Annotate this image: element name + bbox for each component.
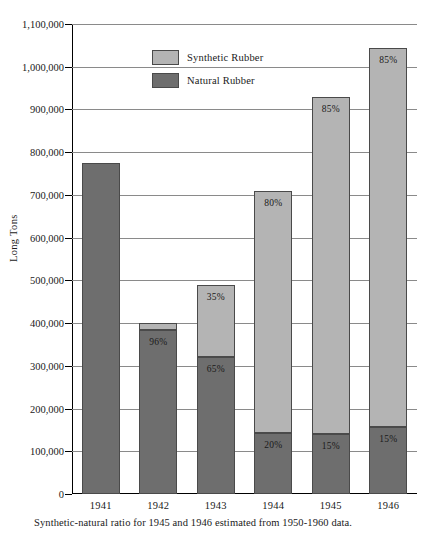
bar-label-natural: 15%: [369, 434, 407, 444]
y-tick-label: 1,100,000: [22, 19, 64, 30]
bar-label-synthetic: 85%: [312, 104, 350, 114]
legend-item-synthetic: Synthetic Rubber: [152, 47, 263, 67]
gridline: [72, 409, 417, 410]
bar-label-natural: 20%: [254, 440, 292, 450]
legend-swatch-natural-icon: [152, 73, 179, 88]
y-tick-label: 1,000,000: [22, 61, 64, 72]
bar-segment-synthetic: [254, 191, 292, 434]
y-tick-label: 400,000: [30, 318, 64, 329]
y-tick-dash: [65, 195, 72, 196]
y-tick-label: 100,000: [30, 446, 64, 457]
bar-segment-synthetic: [369, 48, 407, 427]
y-tick-label: 500,000: [30, 275, 64, 286]
gridline: [72, 152, 417, 153]
gridline: [72, 323, 417, 324]
y-tick-label: 900,000: [30, 104, 64, 115]
chart-caption: Synthetic-natural ratio for 1945 and 194…: [34, 517, 352, 528]
x-tick-label: 1941: [77, 500, 125, 511]
y-tick-label: 0: [59, 489, 64, 500]
y-tick-dash: [65, 409, 72, 410]
gridline: [72, 109, 417, 110]
legend-label-synthetic: Synthetic Rubber: [187, 52, 263, 63]
bar-label-natural: 15%: [312, 441, 350, 451]
x-tick-label: 1946: [364, 500, 412, 511]
bar-label-synthetic: 80%: [254, 198, 292, 208]
y-tick-dash: [65, 238, 72, 239]
bar-segment-natural: [139, 330, 177, 494]
x-tick-label: 1942: [134, 500, 182, 511]
chart-legend: Synthetic Rubber Natural Rubber: [152, 47, 263, 93]
bar-label-natural: 65%: [197, 364, 235, 374]
x-tick-label: 1944: [249, 500, 297, 511]
plot-area: 0100,000200,000300,000400,000500,000600,…: [72, 24, 417, 494]
y-tick-dash: [65, 451, 72, 452]
y-tick-label: 700,000: [30, 189, 64, 200]
y-tick-dash: [65, 280, 72, 281]
y-tick-dash: [65, 67, 72, 68]
axis-frame: [72, 24, 417, 494]
y-tick-label: 600,000: [30, 232, 64, 243]
y-tick-dash: [65, 152, 72, 153]
y-tick-label: 300,000: [30, 360, 64, 371]
bar-segment-natural: [197, 357, 235, 494]
y-tick-label: 200,000: [30, 403, 64, 414]
rubber-production-chart: Long Tons 0100,000200,000300,000400,0005…: [0, 0, 433, 542]
legend-swatch-synthetic-icon: [152, 50, 179, 65]
bar-label-synthetic: 35%: [197, 292, 235, 302]
gridline: [72, 280, 417, 281]
y-tick-dash: [65, 109, 72, 110]
bar-segment-natural: [82, 163, 120, 494]
gridline: [72, 24, 417, 25]
gridline: [72, 451, 417, 452]
gridline: [72, 238, 417, 239]
y-tick-dash: [65, 494, 72, 495]
legend-label-natural: Natural Rubber: [187, 75, 255, 86]
x-tick-label: 1943: [192, 500, 240, 511]
bar-segment-synthetic: [312, 97, 350, 435]
y-tick-dash: [65, 366, 72, 367]
legend-item-natural: Natural Rubber: [152, 70, 263, 90]
y-axis-title: Long Tons: [8, 214, 19, 262]
y-tick-dash: [65, 24, 72, 25]
y-tick-dash: [65, 323, 72, 324]
bar-label-synthetic: 85%: [369, 55, 407, 65]
gridline: [72, 195, 417, 196]
x-tick-label: 1945: [307, 500, 355, 511]
y-tick-label: 800,000: [30, 147, 64, 158]
bar-segment-synthetic: [139, 323, 177, 330]
gridline: [72, 366, 417, 367]
bar-label-natural: 96%: [139, 337, 177, 347]
